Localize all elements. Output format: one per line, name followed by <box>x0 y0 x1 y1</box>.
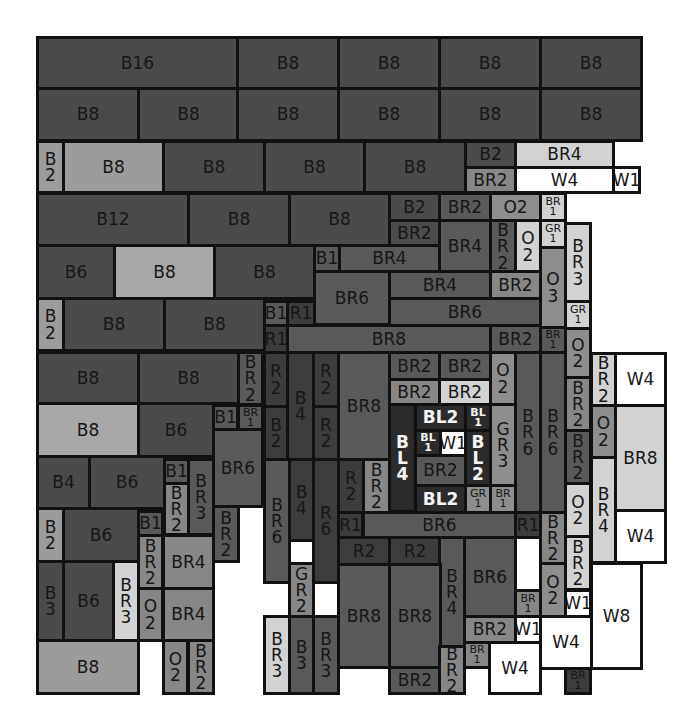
block-b8: B8 <box>263 140 366 194</box>
block-br8: BR8 <box>337 563 391 669</box>
block-br2: B R 2 <box>163 482 190 536</box>
block-label: BR2 <box>473 172 507 189</box>
block-b8: B8 <box>363 140 467 194</box>
block-label: B1 <box>214 409 236 426</box>
block-label: BR2 <box>397 384 431 401</box>
block-label: B8 <box>177 370 199 387</box>
block-label: B 2 <box>45 308 57 340</box>
block-r1: R1 <box>337 511 364 539</box>
block-b1: B1 <box>137 510 164 537</box>
block-label: B6 <box>65 264 87 281</box>
block-b6: B6 <box>88 455 166 510</box>
block-label: BR4 <box>171 606 205 623</box>
block-br2: BR2 <box>388 666 442 695</box>
block-o2: O 2 <box>564 482 592 538</box>
block-label: O 2 <box>546 574 559 606</box>
block-br6: BR6 <box>388 297 542 327</box>
block-label: B R 6 <box>271 497 283 545</box>
block-b1: B1 <box>313 244 341 273</box>
block-br6: B R 6 <box>514 351 542 514</box>
block-label: O 3 <box>546 271 559 303</box>
block-b8: B8 <box>236 36 340 90</box>
block-b8: B8 <box>36 639 140 695</box>
block-label: W8 <box>603 608 631 625</box>
block-label: GR 1 <box>570 305 586 325</box>
block-br8: BR8 <box>388 563 442 669</box>
block-label: W1 <box>514 621 542 638</box>
block-label: BR4 <box>372 250 406 267</box>
block-label: B8 <box>77 370 99 387</box>
block-label: BR8 <box>347 608 381 625</box>
block-o3: O 3 <box>539 246 567 329</box>
block-br2: B R 2 <box>489 219 517 274</box>
block-br1: BR 1 <box>237 404 264 431</box>
block-label: B8 <box>77 422 99 439</box>
block-b6: B6 <box>62 507 140 563</box>
block-br8: BR8 <box>614 404 667 512</box>
block-label: BR2 <box>498 331 532 348</box>
block-br1: BR 1 <box>564 667 592 695</box>
block-r1: R1 <box>514 511 542 539</box>
block-label: B8 <box>479 55 501 72</box>
block-w1: W1 <box>612 166 641 194</box>
block-label: R 2 <box>320 363 332 395</box>
block-label: B R 2 <box>446 646 458 694</box>
block-label: W4 <box>627 371 655 388</box>
block-label: BR2 <box>473 621 507 638</box>
block-br2: B R 2 <box>438 645 466 695</box>
block-label: BR2 <box>397 225 431 242</box>
block-label: W4 <box>551 172 579 189</box>
block-label: O 2 <box>169 651 182 683</box>
block-label: B1 <box>316 250 338 267</box>
block-label: GR 1 <box>545 224 561 244</box>
block-label: B8 <box>177 106 199 123</box>
block-b2: B 2 <box>36 140 65 194</box>
block-label: O 2 <box>496 362 509 394</box>
block-b2: B 2 <box>263 405 289 461</box>
block-label: B8 <box>479 106 501 123</box>
block-w1: W1 <box>439 429 467 457</box>
block-bl2: BL2 <box>414 484 467 514</box>
block-b6: B6 <box>36 244 116 300</box>
block-gr1: GR 1 <box>539 219 567 249</box>
block-label: BL2 <box>423 409 459 426</box>
block-br2: B R 2 <box>237 351 264 406</box>
block-br6: BR6 <box>313 270 391 326</box>
block-br3: B R 3 <box>112 560 140 642</box>
block-label: B R 2 <box>171 485 183 533</box>
block-b8: B8 <box>137 351 240 405</box>
block-label: B R 2 <box>598 355 610 403</box>
block-label: B R 2 <box>371 462 383 510</box>
block-label: B 2 <box>45 151 57 183</box>
block-label: BR 1 <box>545 197 560 217</box>
block-label: B6 <box>90 527 112 544</box>
block-label: BR8 <box>372 331 406 348</box>
block-w1: W1 <box>564 589 592 618</box>
block-label: B8 <box>328 211 350 228</box>
block-br1: BR 1 <box>539 192 567 222</box>
block-b8: B8 <box>288 192 391 247</box>
block-br2: BR2 <box>388 378 441 406</box>
block-label: R2 <box>353 543 376 560</box>
block-label: R 2 <box>345 470 357 502</box>
block-br2: B R 2 <box>564 535 592 591</box>
block-b8: B8 <box>162 140 266 194</box>
block-br2: BR2 <box>438 192 492 222</box>
block-br2: BR2 <box>438 378 492 406</box>
block-label: B8 <box>378 55 400 72</box>
block-br2: B R 2 <box>590 352 617 407</box>
block-br4: BR4 <box>338 244 441 273</box>
block-label: O 2 <box>571 337 584 369</box>
block-br4: BR4 <box>514 140 615 169</box>
block-label: BR2 <box>498 277 532 294</box>
block-br1: BR 1 <box>489 484 517 514</box>
block-br3: B R 3 <box>187 458 215 536</box>
block-b3: B 3 <box>288 615 315 695</box>
block-label: R1 <box>517 517 540 534</box>
block-label: B2 <box>403 199 425 216</box>
block-br1: BR 1 <box>539 326 567 354</box>
block-b1: B1 <box>163 458 190 485</box>
block-label: B 3 <box>45 585 57 617</box>
block-label: B8 <box>580 106 602 123</box>
block-label: BR6 <box>335 290 369 307</box>
